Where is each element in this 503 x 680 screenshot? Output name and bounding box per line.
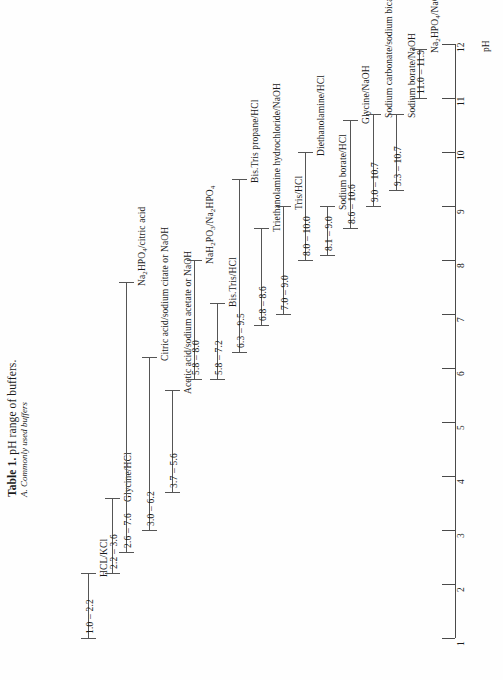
axis-tick-4 [442,476,455,477]
axis-tick-label-1: 1 [456,624,466,646]
range-cap-lower [210,379,225,380]
range-cap-upper [320,206,335,207]
range-cap-lower [187,379,202,380]
axis-tick-label-4: 4 [456,462,466,484]
buffer-name-label: Tris/HCl [294,176,304,210]
range-cap-lower [81,638,96,639]
axis-tick-2 [442,584,455,585]
axis-tick-label-11: 11 [456,84,466,106]
range-cap-lower [298,260,313,261]
buffer-name-label: NaH2PO3/Na2HPO4 [205,186,215,264]
axis-tick-label-3: 3 [456,516,466,538]
buffer-range-value: 5.8 – 8.0 [191,340,201,375]
range-cap-upper [119,282,134,283]
range-cap-lower [366,206,381,207]
range-cap-lower [343,228,358,229]
axis-tick-label-12: 12 [456,30,466,52]
axis-tick-label-8: 8 [456,246,466,268]
range-cap-lower [276,314,291,315]
buffer-range-value: 9.3 – 10.7 [393,146,403,186]
range-cap-lower [320,255,335,256]
range-cap-upper [276,206,291,207]
range-cap-upper [254,228,269,229]
axis-tick-label-5: 5 [456,408,466,430]
buffer-range-value: 9.0 – 10.7 [370,162,380,202]
axis-tick-label-9: 9 [456,192,466,214]
range-cap-lower [165,492,180,493]
buffer-range-bar [126,282,127,552]
buffer-range-value: 1.0 – 2.2 [85,599,95,634]
buffer-range-value: 8.1 – 9.0 [324,216,334,251]
buffer-range-value: 6.3 – 9.5 [236,313,246,348]
buffer-range-value: 3.7 – 5.6 [169,453,179,488]
range-cap-upper [366,114,381,115]
range-cap-lower [142,530,157,531]
axis-tick-label-10: 10 [456,138,466,160]
range-cap-upper [298,152,313,153]
range-cap-lower [254,325,269,326]
axis-tick-8 [442,260,455,261]
caption-title-line: Table 1. pH range of buffers. [6,317,19,497]
axis-tick-10 [442,152,455,153]
axis-tick-6 [442,368,455,369]
range-cap-upper [187,260,202,261]
range-cap-upper [165,390,180,391]
axis-tick-9 [442,206,455,207]
buffer-name-label: Na2HPO4/citric acid [137,206,147,285]
range-cap-lower [412,98,427,99]
range-cap-upper [81,573,96,574]
range-cap-upper [210,303,225,304]
buffer-range-value: 2.2 – 3.6 [109,534,119,569]
caption-subtitle: A. Commonly used buffers [19,317,30,497]
axis-tick-5 [442,422,455,423]
figure-caption: Table 1. pH range of buffers. A. Commonl… [6,317,42,497]
buffer-range-value: 7.0 – 9.0 [280,275,290,310]
ph-axis-label: pH [481,40,491,52]
buffer-name-label: Bis.Tris/HCl [228,257,238,307]
table-number-label: Table 1. [6,458,18,497]
buffer-name-label: Glycine/HCl [123,452,133,502]
axis-tick-11 [442,98,455,99]
buffer-name-label: Diethanolamine/HCl [316,75,326,156]
axis-tick-7 [442,314,455,315]
buffer-range-value: 8.6 – 10.6 [347,184,357,224]
axis-tick-12 [442,44,455,45]
axis-tick-label-7: 7 [456,300,466,322]
buffer-name-label: Triethanolamine hydrochloride/NaOH [272,83,282,232]
range-cap-lower [105,573,120,574]
axis-tick-label-6: 6 [456,354,466,376]
buffer-range-value: 11.0 – 11.9 [416,50,426,94]
axis-tick-1 [442,638,455,639]
range-cap-lower [119,552,134,553]
buffer-name-label: HCL/KCl [99,539,109,577]
range-cap-upper [142,357,157,358]
range-cap-upper [105,498,120,499]
buffer-name-label: Sodium carbonate/sodium bicarbonate [384,0,394,118]
ph-axis-line [455,44,456,638]
page-title: pH range of buffers. [6,360,18,458]
buffer-name-label: Na2HPO4/NaOH [430,0,440,53]
buffer-name-label: Citric acid/sodium citate or NaOH [160,227,170,361]
range-cap-upper [232,179,247,180]
range-cap-upper [389,114,404,115]
range-cap-lower [232,352,247,353]
range-cap-lower [389,190,404,191]
buffer-range-value: 3.0 – 6.2 [146,491,156,526]
buffer-range-value: 6.8 – 8.6 [258,286,268,321]
axis-tick-label-2: 2 [456,570,466,592]
range-cap-upper [343,120,358,121]
axis-tick-3 [442,530,455,531]
buffer-range-value: 8.0 – 10.0 [302,216,312,256]
buffer-name-label: Bis.Tris propane/HCl [250,100,260,183]
buffer-range-value: 5.8 – 7.2 [214,340,224,375]
figure-page: Table 1. pH range of buffers. A. Commonl… [0,0,503,680]
buffer-range-value: 2.6 – 7.6 [123,513,133,548]
